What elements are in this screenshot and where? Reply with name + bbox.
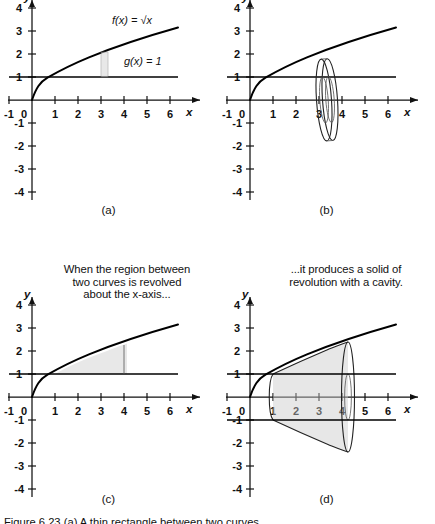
x-tick-label: 6 xyxy=(385,108,391,120)
x-axis-label: x xyxy=(403,403,411,415)
y-tick-label: 3 xyxy=(234,322,240,334)
panel-a-plot: -1 0 1 2 3 4 5 6 x 4 3 2 1 -1 -2 -3 xyxy=(0,0,217,208)
thin-rectangle xyxy=(101,52,108,77)
y-tick-label: -3 xyxy=(232,163,242,175)
x-tick-label: 5 xyxy=(362,405,368,417)
x-tick-label: 1 xyxy=(52,108,58,120)
y-tick-label: -3 xyxy=(14,460,24,472)
x-tick-label: 4 xyxy=(121,405,128,417)
x-tick-label: 3 xyxy=(98,108,104,120)
x-tick-label: 6 xyxy=(385,405,391,417)
g-label: g(x) = 1 xyxy=(124,55,162,67)
x-tick-label: 5 xyxy=(144,108,150,120)
y-tick-label: -1 xyxy=(232,117,242,129)
panel-d-plot: -1 0 1 2 3 4 5 6 x 4 3 2 1 -1 -2 -3 -4 xyxy=(218,289,435,505)
x-tick-label: -1 xyxy=(4,405,14,417)
f-label: f(x) = √x xyxy=(112,14,152,26)
panel-c-plot: -1 0 1 2 3 4 5 6 x 4 3 2 1 -1 -2 -3 -4 xyxy=(0,289,217,505)
y-tick-label: -2 xyxy=(232,437,242,449)
y-axis-label: y xyxy=(23,0,31,3)
panel-d-caption: ...it produces a solid of revolution wit… xyxy=(258,263,434,288)
x-tick-label: 2 xyxy=(293,108,299,120)
x-tick-label: -1 xyxy=(4,108,14,120)
x-axis-label: x xyxy=(403,106,411,118)
x-tick-label: 1 xyxy=(270,108,276,120)
y-tick-label: 3 xyxy=(234,25,240,37)
y-tick-label: -2 xyxy=(14,437,24,449)
panel-c: When the region between two curves is re… xyxy=(0,255,217,502)
y-tick-label: 2 xyxy=(16,48,22,60)
x-tick-label: 3 xyxy=(98,405,104,417)
y-tick-label: -3 xyxy=(14,163,24,175)
x-tick-label: -1 xyxy=(222,405,232,417)
panel-a: region between two curves... -1 0 1 2 3 … xyxy=(0,0,217,239)
y-tick-label: -3 xyxy=(232,460,242,472)
y-tick-label: 2 xyxy=(234,48,240,60)
x-axis-label: x xyxy=(185,106,193,118)
y-tick-label: 3 xyxy=(16,25,22,37)
shaded-region xyxy=(55,344,127,375)
y-tick-label: -2 xyxy=(232,140,242,152)
y-axis-label: y xyxy=(241,0,249,3)
solid-of-revolution xyxy=(269,342,354,452)
x-tick-label: 4 xyxy=(339,108,346,120)
x-tick-label: 6 xyxy=(167,405,173,417)
y-tick-label: -2 xyxy=(14,140,24,152)
y-tick-label: 4 xyxy=(234,2,241,14)
panel-c-label: (c) xyxy=(0,493,217,505)
x-tick-label: 2 xyxy=(75,405,81,417)
panel-b-label: (b) xyxy=(218,204,435,216)
x-axis-label: x xyxy=(185,403,193,415)
panel-a-label: (a) xyxy=(0,204,217,216)
x-tick-label: 2 xyxy=(75,108,81,120)
x-tick-label: 5 xyxy=(362,108,368,120)
y-tick-label: 4 xyxy=(16,299,23,311)
y-tick-label: 3 xyxy=(16,322,22,334)
x-tick-label: -1 xyxy=(222,108,232,120)
panel-b: revolved around the x-axis. -1 0 1 2 3 4… xyxy=(218,0,435,239)
y-ticks: 4 3 2 1 -1 -2 -3 -4 y xyxy=(14,288,36,495)
figure-caption: Figure 6.23 (a) A thin rectangle between… xyxy=(4,516,434,524)
x-tick-label: 6 xyxy=(167,108,173,120)
y-tick-label: -1 xyxy=(14,117,24,129)
y-ticks: 4 3 2 1 -1 -2 -3 -4 y xyxy=(232,288,254,495)
y-tick-label: 4 xyxy=(16,2,23,14)
f-curve xyxy=(250,28,396,101)
y-tick-label: 2 xyxy=(16,345,22,357)
panel-d: ...it produces a solid of revolution wit… xyxy=(218,255,435,502)
y-axis-label: y xyxy=(23,288,31,300)
y-tick-label: 2 xyxy=(234,345,240,357)
y-axis-label: y xyxy=(241,288,249,300)
y-tick-label: -4 xyxy=(232,186,243,198)
y-tick-label: 4 xyxy=(234,299,241,311)
x-tick-label: 4 xyxy=(121,108,128,120)
x-tick-label: 5 xyxy=(144,405,150,417)
y-tick-label: -4 xyxy=(14,186,25,198)
panel-b-plot: -1 0 1 2 3 4 5 6 x 4 3 2 1 -1 -2 -3 -4 xyxy=(218,0,435,208)
x-tick-label: 1 xyxy=(52,405,58,417)
y-tick-label: -1 xyxy=(14,414,24,426)
panel-d-label: (d) xyxy=(218,493,435,505)
